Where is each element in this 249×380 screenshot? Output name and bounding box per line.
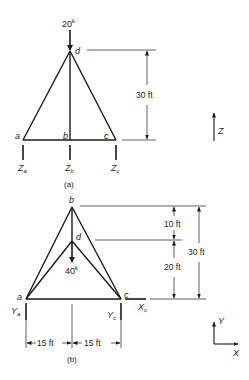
- height-dim-label-a: 30 ft: [136, 90, 153, 100]
- truss-members-b: [26, 207, 121, 299]
- reaction-ya-label: Ya: [11, 306, 21, 317]
- caption-a: (a): [64, 180, 74, 189]
- dim-10ft-label: 10 ft: [164, 219, 181, 229]
- node-b-label-b: b: [69, 195, 74, 205]
- dim-30ft-label: 30 ft: [188, 247, 205, 257]
- reaction-zb-label: Zb: [64, 163, 75, 174]
- figure-a: 20k d a b c Za Zb Zc 30 ft Z (a): [15, 18, 224, 189]
- span-left-label: 15 ft: [37, 338, 54, 348]
- load-label-b: 40k: [65, 265, 79, 276]
- node-a-label-a: a: [15, 131, 20, 141]
- node-c-label-a: c: [104, 131, 109, 141]
- reaction-za-label: Za: [17, 163, 28, 174]
- caption-b: (b): [67, 355, 77, 364]
- reaction-bars-a: [23, 145, 116, 160]
- reaction-yc-label: Yc: [107, 310, 116, 321]
- reaction-bars-b: [26, 299, 146, 320]
- truss-figure: 20k d a b c Za Zb Zc 30 ft Z (a): [0, 0, 249, 380]
- reaction-zc-label: Zc: [110, 163, 120, 174]
- z-axis-label: Z: [217, 126, 224, 136]
- truss-members-a: [23, 51, 116, 140]
- figure-b: 40k b d a c Ya Yc Xc 10 f: [11, 195, 240, 364]
- node-d-label-a: d: [75, 46, 81, 56]
- node-d-label-b: d: [76, 232, 82, 242]
- node-a-label-b: a: [17, 292, 22, 302]
- dim-20ft-label: 20 ft: [164, 262, 181, 272]
- y-axis-label: Y: [218, 316, 225, 326]
- node-b-label-a: b: [63, 131, 68, 141]
- reaction-xc-label: Xc: [137, 302, 147, 313]
- x-axis-label: X: [232, 348, 240, 358]
- span-right-label: 15 ft: [84, 338, 101, 348]
- load-label-a: 20k: [62, 18, 76, 29]
